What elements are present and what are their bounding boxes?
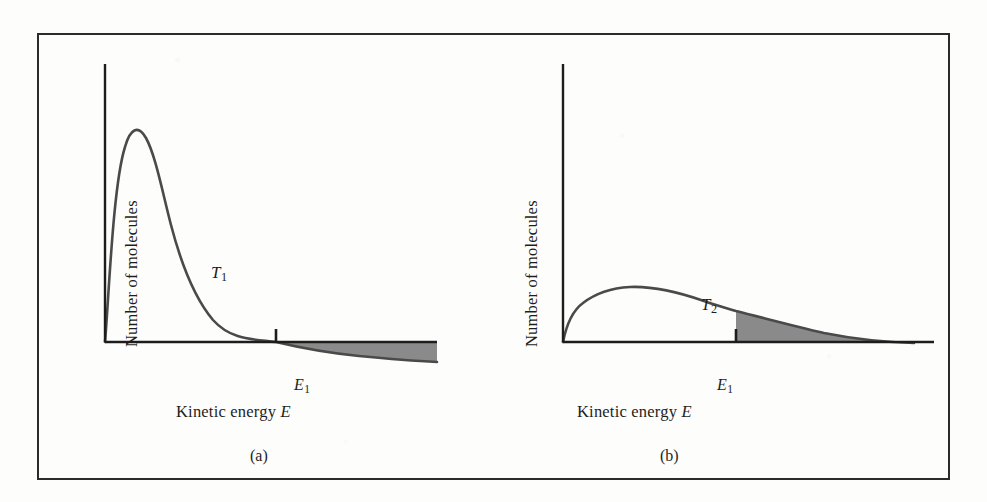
panel-a: Number of molecules Kinetic energy E E1 … <box>39 35 509 482</box>
e1-tick-label-b: E1 <box>717 376 733 395</box>
x-axis-label-symbol-a: E <box>280 402 290 421</box>
e1-subscript-b: 1 <box>727 383 733 395</box>
shaded-tail-a <box>276 342 437 362</box>
x-axis-label-symbol-b: E <box>681 402 691 421</box>
x-axis-label-text-a: Kinetic energy <box>176 402 280 421</box>
t1-subscript: 1 <box>220 270 227 284</box>
panel-b: Number of molecules Kinetic energy E E1 … <box>464 35 934 482</box>
panel-caption-a: (a) <box>250 447 268 465</box>
curve-label-t1: T1 <box>211 263 227 285</box>
x-axis-label-a: Kinetic energy E <box>176 402 291 422</box>
t2-subscript: 2 <box>710 302 717 316</box>
e1-symbol-b: E <box>717 376 727 393</box>
x-axis-label-b: Kinetic energy E <box>577 402 692 422</box>
e1-tick-label-a: E1 <box>294 376 310 395</box>
figure-frame: Number of molecules Kinetic energy E E1 … <box>37 33 950 480</box>
y-axis-label-a: Number of molecules <box>122 200 142 347</box>
e1-symbol-a: E <box>294 376 304 393</box>
figure-page: Number of molecules Kinetic energy E E1 … <box>0 0 987 502</box>
shaded-tail-b <box>736 311 914 343</box>
curve-t1 <box>105 130 437 362</box>
x-axis-label-text-b: Kinetic energy <box>577 402 681 421</box>
e1-subscript-a: 1 <box>304 383 310 395</box>
curve-label-t2: T2 <box>701 295 717 317</box>
panel-caption-b: (b) <box>660 447 679 465</box>
y-axis-label-b: Number of molecules <box>522 200 542 347</box>
